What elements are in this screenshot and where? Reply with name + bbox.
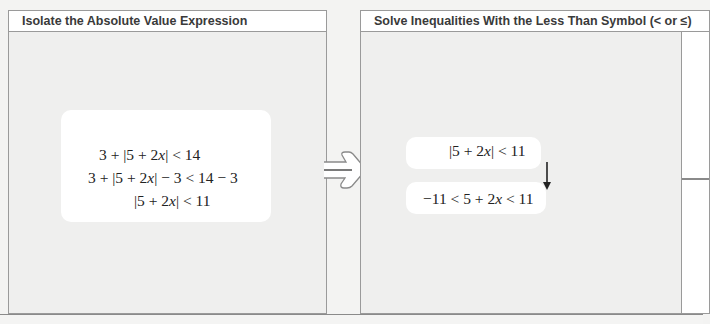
equation-line-1: |5 + 2x| < 11 [449,142,526,160]
panel-body: 3 + |5 + 2x| < 14 3 + |5 + 2x| − 3 < 14 … [9,32,326,313]
equation-line-3: |5 + 2x| < 11 [134,192,211,210]
panel-title: Solve Inequalities With the Less Than Sy… [361,11,709,32]
connector-line [682,178,709,180]
panel-solve-less-than: Solve Inequalities With the Less Than Sy… [360,10,710,314]
equation-line-2: 3 + |5 + 2x| − 3 < 14 − 3 [88,169,238,187]
panel-body: |5 + 2x| < 11 −11 < 5 + 2x < 11 [361,32,709,313]
down-arrow-icon [542,162,552,190]
bottom-edge [0,314,703,324]
panel-title: Isolate the Absolute Value Expression [9,11,326,32]
equation-line-2: −11 < 5 + 2x < 11 [423,190,533,208]
equation-line-1: 3 + |5 + 2x| < 14 [99,146,200,164]
next-step-panel [682,32,709,313]
panel-isolate-absolute-value: Isolate the Absolute Value Expression 3 … [8,10,327,314]
